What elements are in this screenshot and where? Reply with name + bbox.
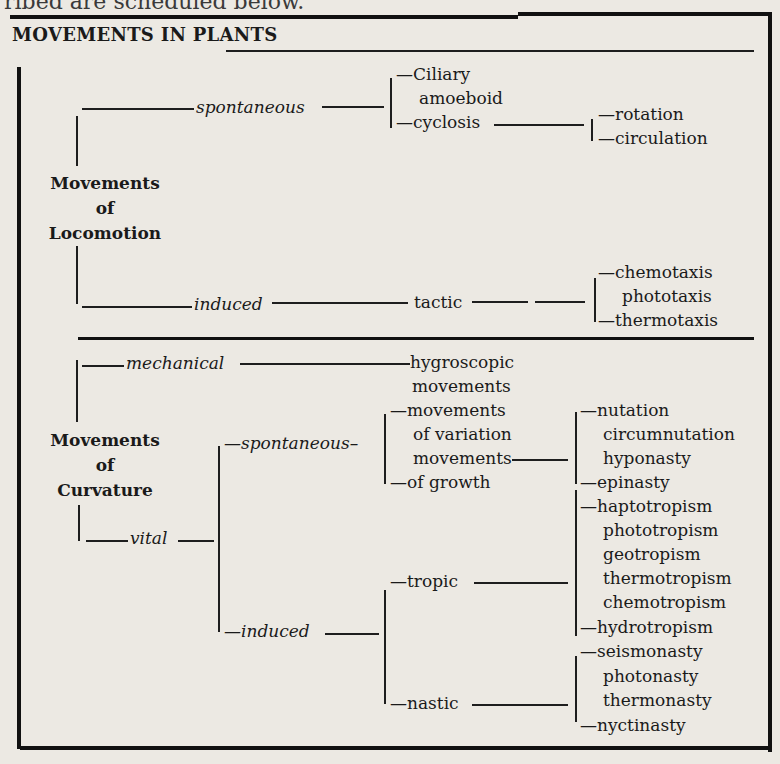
connector bbox=[272, 302, 408, 304]
growth-hyponasty: hyponasty bbox=[603, 448, 691, 468]
bracket bbox=[575, 490, 577, 636]
loco-spont-amoeboid: amoeboid bbox=[419, 88, 503, 108]
tactic-thermotaxis: —thermotaxis bbox=[598, 310, 718, 330]
growth-circumnutation: circumnutation bbox=[603, 424, 735, 444]
bracket bbox=[575, 656, 577, 722]
box-right-border bbox=[768, 12, 772, 752]
spont-movements-variation-2: of variation bbox=[413, 424, 512, 444]
tropic-thermotropism: thermotropism bbox=[603, 568, 732, 588]
loco-spont-cyclosis: —cyclosis bbox=[396, 112, 480, 132]
connector bbox=[494, 124, 584, 126]
connector bbox=[474, 582, 568, 584]
bracket bbox=[390, 78, 392, 128]
title-rule bbox=[226, 50, 754, 52]
tropic-geotropism: geotropism bbox=[603, 544, 701, 564]
bracket bbox=[384, 414, 386, 484]
tropic-hydrotropism: —hydrotropism bbox=[580, 617, 713, 637]
locomotion-spontaneous: spontaneous bbox=[196, 97, 305, 117]
curvature-upper-stem bbox=[76, 360, 78, 422]
section-divider bbox=[78, 337, 754, 340]
box-left-border bbox=[17, 67, 21, 749]
label-line: Movements bbox=[40, 171, 170, 196]
label-line: Movements bbox=[40, 428, 170, 453]
loco-spont-ciliary: —Ciliary bbox=[396, 64, 470, 84]
bracket bbox=[384, 590, 386, 704]
connector bbox=[325, 633, 379, 635]
locomotion-group-label: Movements of Locomotion bbox=[40, 171, 170, 246]
locomotion-lower-stem bbox=[76, 246, 78, 304]
preceding-text-fragment: ribed are scheduled below. bbox=[4, 0, 304, 14]
cyclosis-circulation: —circulation bbox=[598, 128, 708, 148]
connector bbox=[322, 106, 384, 108]
induced-tropic: —tropic bbox=[390, 571, 458, 591]
connector bbox=[82, 365, 124, 367]
induced-nastic: —nastic bbox=[390, 693, 459, 713]
connector bbox=[472, 704, 568, 706]
spont-movements-variation-1: —movements bbox=[390, 400, 506, 420]
tropic-chemotropism: chemotropism bbox=[603, 592, 726, 612]
locomotion-induced: induced bbox=[194, 294, 263, 314]
vital-induced: —induced bbox=[224, 621, 310, 641]
spont-movements-growth-2: —of growth bbox=[390, 472, 491, 492]
curvature-vital: vital bbox=[130, 528, 167, 548]
tactic-chemotaxis: —chemotaxis bbox=[598, 262, 713, 282]
nastic-thermonasty: thermonasty bbox=[603, 690, 712, 710]
connector bbox=[86, 540, 128, 542]
tactic-phototaxis: phototaxis bbox=[622, 286, 712, 306]
connector bbox=[178, 540, 214, 542]
spont-movements-growth-1: movements bbox=[413, 448, 512, 468]
cyclosis-rotation: —rotation bbox=[598, 104, 684, 124]
curvature-group-label: Movements of Curvature bbox=[40, 428, 170, 503]
label-line: of bbox=[40, 196, 170, 221]
mechanical-hygroscopic: hygroscopic bbox=[410, 352, 514, 372]
bracket bbox=[591, 119, 593, 141]
connector bbox=[240, 363, 410, 365]
curvature-mechanical: mechanical bbox=[126, 353, 224, 373]
box-top-border bbox=[10, 15, 518, 19]
diagram-title: MOVEMENTS IN PLANTS bbox=[12, 24, 278, 45]
connector bbox=[472, 301, 528, 303]
connector bbox=[82, 306, 192, 308]
vital-bracket bbox=[218, 446, 220, 632]
label-line: of bbox=[40, 453, 170, 478]
locomotion-tactic: tactic bbox=[414, 292, 462, 312]
locomotion-upper-stem bbox=[76, 116, 78, 166]
label-line: Curvature bbox=[40, 478, 170, 503]
nastic-nyctinasty: —nyctinasty bbox=[580, 715, 686, 735]
box-bottom-border bbox=[20, 746, 772, 750]
vital-spontaneous: —spontaneous– bbox=[224, 433, 358, 453]
bracket bbox=[575, 412, 577, 484]
nastic-seismonasty: —seismonasty bbox=[580, 641, 703, 661]
label-line: Locomotion bbox=[40, 221, 170, 246]
tropic-phototropism: phototropism bbox=[603, 520, 719, 540]
connector bbox=[82, 108, 194, 110]
nastic-photonasty: photonasty bbox=[603, 666, 698, 686]
connector bbox=[512, 459, 568, 461]
bracket bbox=[594, 278, 596, 322]
tropic-haptotropism: —haptotropism bbox=[580, 496, 712, 516]
growth-epinasty: —epinasty bbox=[580, 472, 670, 492]
mechanical-movements: movements bbox=[412, 376, 511, 396]
connector bbox=[535, 301, 585, 303]
curvature-lower-stem bbox=[78, 505, 80, 541]
growth-nutation: —nutation bbox=[580, 400, 669, 420]
box-top-border-right bbox=[518, 12, 772, 16]
